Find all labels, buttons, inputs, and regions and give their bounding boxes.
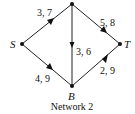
arrow-top-b-icon <box>70 42 75 48</box>
diagram-caption: Network 2 <box>51 101 94 112</box>
arrow-s-top-icon <box>47 18 54 25</box>
node-t-label: T <box>124 38 131 50</box>
edge-top-b-label: 3, 6 <box>76 46 91 57</box>
node-s <box>20 42 24 46</box>
arrow-s-b-icon <box>46 63 53 70</box>
node-s-label: S <box>10 38 16 50</box>
node-t <box>118 42 122 46</box>
edge-b-t-label: 2, 9 <box>100 65 115 76</box>
network-diagram: S T B 3, 7 5, 8 3, 6 4, 9 2, 9 Network 2 <box>0 0 135 114</box>
edge-s-b-label: 4, 9 <box>35 73 50 84</box>
node-top <box>70 2 74 6</box>
edge-s-top-label: 3, 7 <box>37 7 52 18</box>
edge-top-t-label: 5, 8 <box>100 17 115 28</box>
node-b <box>70 84 74 88</box>
arrow-b-t-icon <box>102 54 108 63</box>
